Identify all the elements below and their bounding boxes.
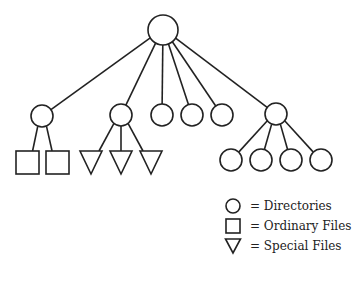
directory-node [280,149,302,171]
ordinary-file-node [46,151,69,174]
tree-edge [176,38,268,107]
square-icon [224,217,242,235]
ordinary-file-node [16,151,39,174]
directory-node [310,149,332,171]
tree-edge [99,123,114,151]
special-file-node [110,151,132,174]
legend-label: = Ordinary Files [250,219,351,233]
tree-edge [264,124,271,149]
tree-edge [128,123,143,151]
tree-edge [51,38,150,110]
legend-label: = Special Files [250,239,342,253]
tree-edges [33,38,314,152]
legend-item-special-files: = Special Files [224,236,363,256]
circle-icon [224,197,242,215]
directory-node [250,149,272,171]
legend-item-directories: = Directories [224,196,363,216]
legend-item-ordinary-files: = Ordinary Files [224,216,363,236]
tree-edge [168,44,188,105]
tree-nodes [16,15,332,174]
triangle-icon [224,237,242,255]
special-file-node [140,151,162,174]
tree-edge [46,126,52,151]
directory-node [110,104,132,126]
tree-edge [280,124,287,149]
special-file-node [80,151,102,174]
directory-node [220,149,242,171]
tree-edge [33,126,38,151]
tree-edge [285,121,314,152]
directory-node [151,104,173,126]
directory-node [31,105,53,127]
legend-label: = Directories [250,199,332,213]
legend: = Directories = Ordinary Files = Special… [224,196,363,256]
directory-node [181,104,203,126]
tree-edge [239,121,268,152]
tree-edge [162,45,163,104]
directory-node [265,103,287,125]
root-directory-node [148,15,178,45]
directory-node [211,104,233,126]
